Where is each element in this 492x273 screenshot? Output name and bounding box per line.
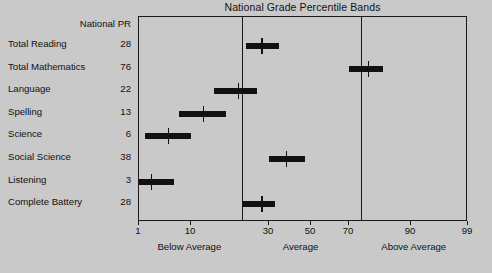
row-label-name: Science [8,128,42,139]
row-label-pr-value: 13 [120,106,131,117]
percentile-band-marker [261,38,263,54]
row-label-pr-value: 28 [120,38,131,49]
percentile-band-row [139,127,466,145]
x-axis: 1103050709099Below AverageAverageAbove A… [138,221,467,273]
row-label: Listening3 [4,174,136,188]
row-label-name: Total Mathematics [8,61,85,72]
percentile-band-row [139,150,466,168]
chart-page: National Grade Percentile Bands National… [0,0,492,273]
percentile-band-bar [139,179,174,185]
percentile-band-marker [168,128,170,144]
percentile-band-marker [261,196,263,212]
row-label-pr-value: 38 [120,151,131,162]
chart-title: National Grade Percentile Bands [138,1,467,13]
axis-tick-label: 30 [263,225,274,236]
percentile-band-marker [203,106,205,122]
row-label-column: National PR Total Reading28Total Mathema… [0,0,136,226]
axis-tick-label: 50 [305,225,316,236]
row-label-name: Social Science [8,151,71,162]
percentile-band-marker [368,61,370,77]
row-label: Total Reading28 [4,38,136,52]
zone-label: Below Average [157,241,221,252]
percentile-band-bar [349,66,383,72]
percentile-band-marker [286,151,288,167]
column-header-national-pr: National PR [80,18,131,29]
percentile-band-bar [214,88,257,94]
percentile-band-bar [242,201,276,207]
percentile-band-row [139,37,466,55]
row-label: Complete Battery28 [4,196,136,210]
row-label: Science6 [4,128,136,142]
row-label: Total Mathematics76 [4,61,136,75]
axis-tick-label: 10 [185,225,196,236]
axis-tick-label: 1 [135,225,140,236]
row-label-pr-value: 3 [126,174,131,185]
axis-tick-label: 70 [343,225,354,236]
row-label-name: Spelling [8,106,42,117]
row-label-pr-value: 22 [120,83,131,94]
percentile-band-row [139,60,466,78]
percentile-band-row [139,173,466,191]
zone-label: Above Average [381,241,446,252]
percentile-band-row [139,82,466,100]
axis-tick-label: 90 [405,225,416,236]
row-label-name: Complete Battery [8,196,82,207]
row-label: Spelling13 [4,106,136,120]
row-label: Language22 [4,83,136,97]
row-label-pr-value: 6 [126,128,131,139]
percentile-band-row [139,195,466,213]
row-label-name: Total Reading [8,38,67,49]
row-label-pr-value: 76 [120,61,131,72]
percentile-band-marker [151,174,153,190]
row-label-name: Listening [8,174,46,185]
zone-label: Average [283,241,319,252]
percentile-band-marker [238,83,240,99]
percentile-band-row [139,105,466,123]
row-label: Social Science38 [4,151,136,165]
plot-area [138,16,467,221]
axis-tick-label: 99 [462,225,473,236]
row-label-pr-value: 28 [120,196,131,207]
row-label-name: Language [8,83,51,94]
